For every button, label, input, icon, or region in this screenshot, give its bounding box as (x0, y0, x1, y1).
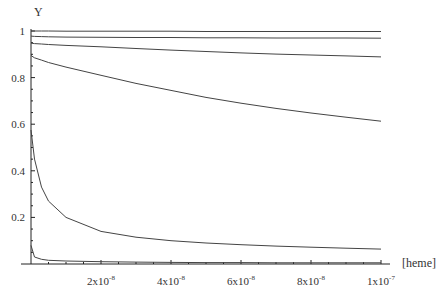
series-group (31, 31, 381, 263)
series-curve-5 (31, 130, 381, 249)
y-tick-label: 0.6 (11, 118, 25, 130)
line-chart: 0.20.40.60.812x10-84x10-86x10-88x10-81x1… (0, 0, 444, 291)
series-curve-4 (31, 56, 381, 122)
y-tick-label: 0.8 (11, 72, 25, 84)
y-tick-label: 0.2 (11, 211, 25, 223)
x-tick-label: 8x10-8 (297, 274, 325, 287)
x-tick-label: 2x10-8 (87, 274, 115, 287)
series-curve-2 (31, 36, 381, 38)
y-tick-label: 0.4 (11, 165, 25, 177)
x-axis-title: [heme] (402, 256, 436, 270)
x-tick-label: 4x10-8 (157, 274, 185, 287)
x-tick-label: 1x10-7 (367, 274, 395, 287)
series-curve-3 (31, 43, 381, 57)
series-curve-1 (31, 31, 381, 32)
y-axis-title: Y (34, 5, 43, 19)
axes (21, 29, 390, 264)
y-tick-label: 1 (20, 25, 26, 37)
x-tick-label: 6x10-8 (227, 274, 255, 287)
